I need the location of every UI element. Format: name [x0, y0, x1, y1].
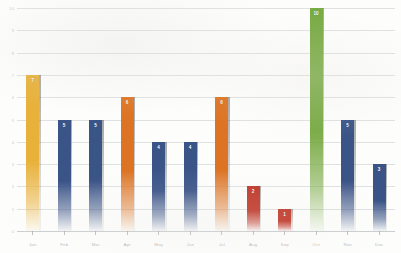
bar-shadow	[134, 97, 136, 231]
bar-group-apr[interactable]: 6	[112, 8, 144, 231]
x-label-feb: Feb	[49, 242, 81, 248]
bars-layer: 7Jan5Feb5Mar6Apr4May4Jun6Jul2Aug1Sep10Oc…	[17, 0, 395, 253]
bar-dec[interactable]	[373, 164, 386, 231]
y-tick-label-9: 9	[12, 28, 14, 33]
x-tick-may	[158, 231, 159, 235]
bar-value-dec: 3	[373, 167, 386, 173]
bar-value-jun: 4	[184, 145, 197, 151]
x-tick-jun	[190, 231, 191, 235]
x-tick-aug	[253, 231, 254, 235]
x-label-jan: Jan	[17, 242, 49, 248]
bar-shadow	[323, 8, 325, 231]
bar-group-jan[interactable]: 7	[17, 8, 49, 231]
bar-group-may[interactable]: 4	[143, 8, 175, 231]
bar-value-mar: 5	[89, 123, 102, 129]
x-tick-mar	[95, 231, 96, 235]
x-label-jun: Jun	[175, 242, 207, 248]
bar-value-apr: 6	[121, 100, 134, 106]
bar-group-aug[interactable]: 2	[238, 8, 270, 231]
bar-group-feb[interactable]: 5	[49, 8, 81, 231]
x-label-jul: Jul	[206, 242, 238, 248]
bar-group-mar[interactable]: 5	[80, 8, 112, 231]
bar-shadow	[197, 142, 199, 231]
bar-shadow	[386, 164, 388, 231]
y-tick-label-2: 2	[12, 184, 14, 189]
y-tick-label-8: 8	[12, 50, 14, 55]
x-tick-dec	[379, 231, 380, 235]
x-tick-jan	[32, 231, 33, 235]
bar-shadow	[39, 75, 41, 231]
bar-group-nov[interactable]: 5	[332, 8, 364, 231]
x-tick-oct	[316, 231, 317, 235]
bar-group-jul[interactable]: 6	[206, 8, 238, 231]
bar-value-may: 4	[152, 145, 165, 151]
bar-feb[interactable]	[58, 120, 71, 232]
x-label-may: May	[143, 242, 175, 248]
bar-mar[interactable]	[89, 120, 102, 232]
bar-group-sep[interactable]: 1	[269, 8, 301, 231]
x-tick-sep	[284, 231, 285, 235]
y-tick-label-4: 4	[12, 139, 14, 144]
bar-jun[interactable]	[184, 142, 197, 231]
bar-value-aug: 2	[247, 189, 260, 195]
x-label-dec: Dec	[364, 242, 396, 248]
y-tick-label-6: 6	[12, 95, 14, 100]
y-tick-label-1: 1	[12, 206, 14, 211]
bar-value-oct: 10	[310, 11, 323, 17]
y-tick-label-0: 0	[12, 229, 14, 234]
chart-title	[0, 0, 401, 7]
bar-value-feb: 5	[58, 123, 71, 129]
bar-value-sep: 1	[278, 212, 291, 218]
bar-group-oct[interactable]: 10	[301, 8, 333, 231]
bar-shadow	[260, 186, 262, 231]
bar-group-jun[interactable]: 4	[175, 8, 207, 231]
x-label-nov: Nov	[332, 242, 364, 248]
bar-shadow	[71, 120, 73, 232]
x-label-mar: Mar	[80, 242, 112, 248]
bar-chart: 012345678910 7Jan5Feb5Mar6Apr4May4Jun6Ju…	[0, 0, 401, 253]
x-label-oct: Oct	[301, 242, 333, 248]
y-tick-label-7: 7	[12, 72, 14, 77]
bar-value-jul: 6	[215, 100, 228, 106]
x-tick-apr	[127, 231, 128, 235]
x-tick-jul	[221, 231, 222, 235]
bar-nov[interactable]	[341, 120, 354, 232]
bar-value-nov: 5	[341, 123, 354, 129]
bar-jul[interactable]	[215, 97, 228, 231]
bar-may[interactable]	[152, 142, 165, 231]
bar-shadow	[291, 209, 293, 231]
bar-group-dec[interactable]: 3	[364, 8, 396, 231]
y-tick-label-3: 3	[12, 162, 14, 167]
y-axis: 012345678910	[0, 0, 17, 253]
x-label-aug: Aug	[238, 242, 270, 248]
bar-jan[interactable]	[26, 75, 39, 231]
bar-shadow	[102, 120, 104, 232]
y-tick-label-5: 5	[12, 117, 14, 122]
bar-shadow	[354, 120, 356, 232]
bar-shadow	[165, 142, 167, 231]
bar-apr[interactable]	[121, 97, 134, 231]
bar-shadow	[228, 97, 230, 231]
bar-oct[interactable]	[310, 8, 323, 231]
bar-value-jan: 7	[26, 78, 39, 84]
x-label-apr: Apr	[112, 242, 144, 248]
x-label-sep: Sep	[269, 242, 301, 248]
x-tick-nov	[347, 231, 348, 235]
x-tick-feb	[64, 231, 65, 235]
